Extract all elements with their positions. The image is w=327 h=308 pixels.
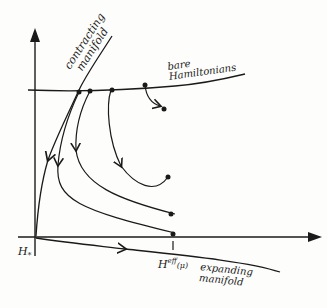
points bbox=[77, 83, 176, 237]
expanding-manifold-label: expanding manifold bbox=[199, 261, 254, 288]
end-point-1 bbox=[171, 232, 176, 237]
expanding-manifold-curve bbox=[36, 238, 125, 249]
vertical-axis-arrow-icon bbox=[30, 28, 40, 42]
contracting-manifold-lower bbox=[36, 160, 48, 236]
trajectory-3 bbox=[108, 90, 121, 166]
start-point-1 bbox=[77, 90, 82, 95]
trajectory-2 bbox=[76, 91, 90, 150]
flow-trajectories bbox=[58, 85, 175, 233]
end-point-2 bbox=[169, 212, 174, 217]
end-point-4 bbox=[162, 107, 167, 112]
trajectory-3-tail bbox=[121, 166, 168, 186]
start-point-2 bbox=[88, 89, 93, 94]
rg-flow-diagram: contracting manifold bare Hamiltonians H… bbox=[0, 0, 327, 308]
end-point-3 bbox=[166, 175, 171, 180]
bare-hamiltonians-curve bbox=[28, 74, 245, 91]
contracting-manifold-label: contracting manifold bbox=[62, 11, 117, 78]
h-star-label: H* bbox=[17, 245, 32, 260]
start-point-4 bbox=[143, 83, 148, 88]
start-point-3 bbox=[110, 88, 115, 93]
horizontal-axis-arrow-icon bbox=[308, 232, 322, 242]
bare-hamiltonians-label: bare Hamiltonians bbox=[166, 52, 237, 82]
trajectory-1-tail bbox=[58, 165, 175, 233]
trajectory-2-tail bbox=[76, 150, 175, 214]
h-eff-label: Heff(μ) bbox=[157, 257, 188, 271]
